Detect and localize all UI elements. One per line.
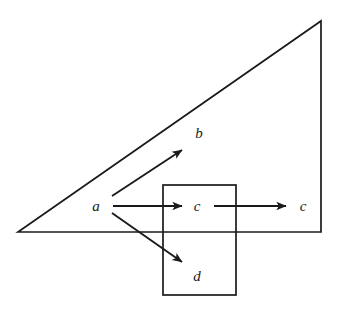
label-b: b <box>195 126 203 141</box>
label-c-outer: c <box>300 199 307 214</box>
label-a: a <box>92 199 100 214</box>
diagram-svg <box>0 0 339 313</box>
label-d: d <box>193 269 201 284</box>
arrow-a-to-d <box>112 213 182 262</box>
arrow-a-to-b <box>112 150 182 196</box>
triangle-shape <box>18 21 321 232</box>
label-c-inner: c <box>194 199 201 214</box>
diagram-canvas: a b c c d <box>0 0 339 313</box>
